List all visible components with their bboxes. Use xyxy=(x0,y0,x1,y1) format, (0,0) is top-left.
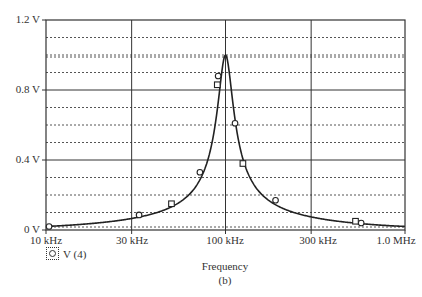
x-tick-label-300k: 300 kHz xyxy=(299,234,337,246)
x-tick-label-100k: 100 kHz xyxy=(206,234,244,246)
legend: V (4) xyxy=(46,247,86,260)
y-tick-label-1.2: 1.2 V xyxy=(2,13,40,25)
legend-label: V (4) xyxy=(63,248,86,260)
x-tick-label-30k: 30 kHz xyxy=(116,234,148,246)
data-markers xyxy=(46,73,364,229)
legend-circle-marker-icon xyxy=(46,247,59,260)
x-axis-title: Frequency xyxy=(202,260,248,272)
y-tick-label-0.8: 0.8 V xyxy=(2,83,40,95)
x-tick-label-1M: 1.0 MHz xyxy=(376,234,415,246)
y-tick-label-0.4: 0.4 V xyxy=(2,153,40,165)
grid-lines xyxy=(42,20,405,234)
figure-caption: (b) xyxy=(219,274,232,286)
x-tick-label-10k: 10 kHz xyxy=(30,234,62,246)
